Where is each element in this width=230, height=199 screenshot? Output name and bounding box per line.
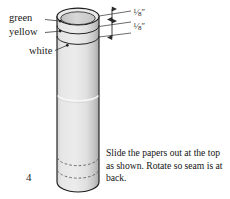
tube-body bbox=[57, 17, 99, 193]
label-green: green bbox=[9, 13, 32, 24]
tube-rim bbox=[57, 8, 99, 25]
dimension-extension-lines bbox=[99, 11, 131, 37]
dimension-label-bottom: 1⁄8″ bbox=[133, 22, 145, 32]
figure-number: 4 bbox=[26, 172, 32, 183]
dimension-label-top: 1⁄8″ bbox=[133, 8, 145, 18]
fraction-bottom: 1⁄8 bbox=[133, 22, 142, 32]
fraction-top: 1⁄8 bbox=[133, 8, 142, 18]
leader-dot-yellow bbox=[59, 30, 62, 33]
label-yellow: yellow bbox=[9, 27, 38, 38]
label-white: white bbox=[29, 46, 52, 57]
dimension-top-unit: ″ bbox=[142, 7, 146, 17]
leader-dot-green bbox=[59, 20, 62, 23]
leader-dot-white bbox=[66, 44, 69, 47]
figure-page: green yellow white 1⁄8″ 1⁄8″ 4 Slide the… bbox=[0, 0, 230, 199]
figure-caption: Slide the papers out at the top as shown… bbox=[106, 147, 226, 185]
dimension-bottom-unit: ″ bbox=[142, 21, 146, 31]
